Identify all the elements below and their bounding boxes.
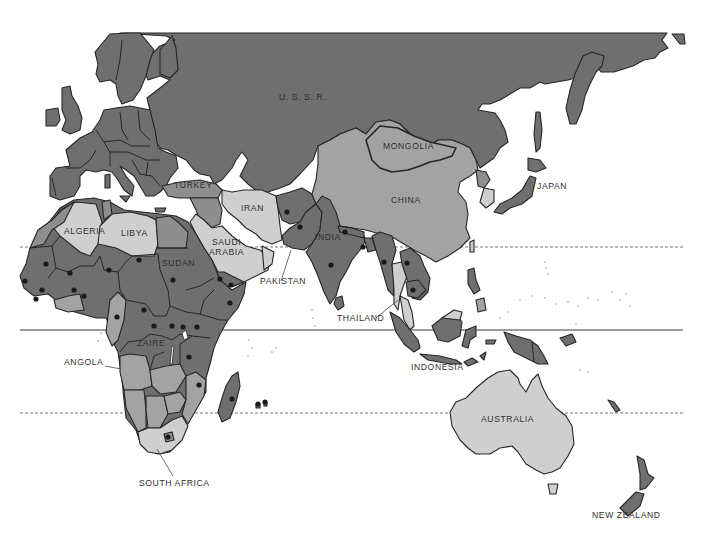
region-sardinia — [105, 174, 110, 188]
map-canvas — [0, 0, 720, 550]
marker-dot — [170, 277, 175, 282]
marker-dot — [342, 229, 347, 234]
label-iran: IRAN — [241, 204, 264, 213]
marker-dot — [328, 262, 333, 267]
label-australia: AUSTRALIA — [481, 415, 534, 424]
region-sri-lanka — [334, 296, 344, 310]
region-seram — [486, 340, 496, 344]
region-new-zealand-north — [637, 456, 654, 490]
region-madagascar — [218, 372, 240, 422]
leader-line-angola — [105, 366, 121, 369]
label-new-zealand: NEW ZEALAND — [592, 511, 661, 520]
label-mongolia: MONGOLIA — [383, 142, 434, 151]
marker-dot — [194, 324, 199, 329]
marker-dot — [217, 276, 222, 281]
marker-dot — [196, 382, 201, 387]
region-mozambique — [182, 372, 206, 424]
marker-dot — [81, 293, 86, 298]
marker-dot — [262, 399, 267, 404]
marker-dot — [136, 257, 141, 262]
region-uk — [62, 86, 82, 134]
region-korea-north — [476, 170, 490, 188]
marker-dot — [186, 354, 191, 359]
region-crete — [155, 208, 166, 212]
marker-dot — [71, 287, 76, 292]
label-india: INDIA — [315, 233, 341, 242]
marker-dot — [180, 324, 185, 329]
marker-dot — [141, 307, 146, 312]
marker-dot — [228, 282, 233, 287]
region-far-east-islet — [672, 34, 685, 44]
region-borneo-north — [442, 310, 462, 320]
region-philippines — [468, 268, 480, 294]
region-sulawesi — [462, 326, 476, 348]
region-mindanao — [476, 298, 486, 312]
label-indonesia: INDONESIA — [411, 363, 464, 372]
marker-dot — [381, 259, 386, 264]
marker-dot — [22, 278, 27, 283]
region-new-caledonia — [608, 400, 620, 412]
label-pakistan: PAKISTAN — [260, 277, 306, 286]
marker-dot — [165, 434, 170, 439]
region-japan-hokkaido — [528, 158, 546, 172]
marker-dot — [43, 261, 48, 266]
marker-dot — [227, 300, 232, 305]
label-angola: ANGOLA — [64, 358, 103, 367]
label-china: CHINA — [391, 196, 421, 205]
marker-dot — [229, 396, 234, 401]
marker-dot — [39, 287, 44, 292]
region-scandinavia — [95, 33, 154, 104]
region-japan-honshu — [494, 176, 536, 214]
label-algeria: ALGERIA — [64, 227, 105, 236]
label-saudi-arabia: SAUDI ARABIA — [209, 238, 244, 258]
region-sicily — [120, 196, 130, 202]
region-oman — [262, 246, 274, 270]
region-tasmania — [548, 484, 558, 494]
region-ireland — [46, 108, 60, 126]
label-south-africa: SOUTH AFRICA — [139, 479, 210, 488]
label-sudan: SUDAN — [162, 259, 195, 268]
marker-dot — [255, 401, 260, 406]
region-papua — [504, 332, 548, 364]
label-japan: JAPAN — [537, 182, 567, 191]
marker-dot — [106, 267, 111, 272]
region-taiwan — [470, 240, 474, 252]
region-new-britain — [560, 334, 576, 346]
label-libya: LIBYA — [121, 229, 148, 238]
marker-dot — [360, 244, 365, 249]
region-lesser-sunda — [464, 352, 486, 366]
marker-dot — [33, 296, 38, 301]
region-korea-south — [480, 188, 494, 208]
marker-dot — [404, 260, 409, 265]
label-thailand: THAILAND — [337, 314, 384, 323]
marker-dot — [284, 209, 289, 214]
region-angola — [120, 354, 152, 390]
label-ussr: U. S. S. R. — [279, 93, 326, 102]
marker-dot — [151, 323, 156, 328]
label-zaire: ZAIRE — [137, 339, 165, 348]
marker-dot — [67, 270, 72, 275]
marker-dot — [169, 323, 174, 328]
region-sakhalin — [534, 112, 542, 152]
label-turkey: TURKEY — [174, 181, 212, 190]
marker-dot — [297, 224, 302, 229]
marker-dot — [410, 287, 415, 292]
marker-dot — [114, 314, 119, 319]
region-namibia — [124, 390, 146, 432]
